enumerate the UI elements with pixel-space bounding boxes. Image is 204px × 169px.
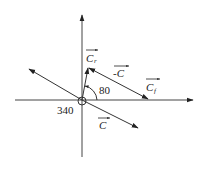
svg-text:f: f: [154, 87, 157, 95]
angle-80-label: 80: [99, 84, 111, 96]
label-c: C: [98, 118, 110, 131]
svg-text:C: C: [86, 52, 94, 64]
vector-diagram: C r -C C f C 80 340: [0, 0, 204, 169]
angle-340-label: 340: [57, 104, 74, 116]
angle-80-arc: [85, 86, 97, 100]
svg-text:-C: -C: [113, 67, 125, 79]
svg-text:r: r: [94, 57, 97, 65]
label-cr: C r: [86, 50, 98, 65]
label-neg-c: -C: [113, 66, 129, 79]
svg-text:C: C: [146, 81, 154, 93]
label-cf: C f: [146, 79, 160, 95]
svg-text:C: C: [99, 119, 107, 131]
vector-cr-line: [82, 68, 88, 100]
vector-c-line: [82, 100, 138, 128]
vector-c-extension-line: [29, 69, 82, 100]
